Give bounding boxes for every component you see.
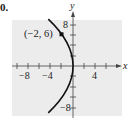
tick-label-y-neg8: −8 <box>60 103 71 113</box>
point-annotation: (−2, 6) <box>24 29 53 40</box>
y-axis-label: y <box>70 1 74 11</box>
y-axis-arrow-icon <box>71 11 75 17</box>
tick-label-y-8: 8 <box>63 20 68 30</box>
x-axis-label: x <box>123 61 127 71</box>
tick-label-x-neg8: −8 <box>19 71 30 81</box>
tick-label-x-4: 4 <box>92 71 97 81</box>
point-marker-icon <box>60 32 64 36</box>
tick-label-x-neg4: −4 <box>42 71 53 81</box>
